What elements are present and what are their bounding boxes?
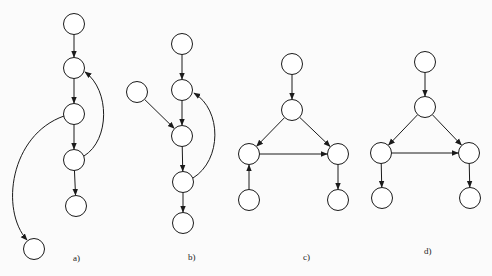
graph-node xyxy=(172,80,193,101)
graph-node xyxy=(64,150,85,171)
graph-a xyxy=(13,14,104,260)
graph-node xyxy=(127,82,148,103)
edge-arrow xyxy=(469,163,470,187)
graph-node xyxy=(239,190,260,211)
graph-node xyxy=(173,172,194,193)
graphs-svg xyxy=(0,0,492,276)
graph-node xyxy=(172,126,193,147)
graph-node xyxy=(64,58,85,79)
graph-d xyxy=(371,52,481,209)
graph-node xyxy=(66,196,87,217)
graph-node xyxy=(460,188,481,209)
graph-node xyxy=(64,14,85,35)
graph-node xyxy=(172,34,193,55)
edge-arrow xyxy=(193,93,215,178)
edge-arrow xyxy=(257,118,285,147)
graph-node xyxy=(282,54,303,75)
graph-node xyxy=(415,97,436,118)
diagram-canvas: a) b) c) d) xyxy=(0,0,492,276)
edge-arrow xyxy=(74,170,75,195)
graph-node xyxy=(64,104,85,125)
edge-arrow xyxy=(381,163,382,187)
edge-arrow xyxy=(182,146,183,171)
graph-node xyxy=(372,188,393,209)
edge-arrow xyxy=(84,72,104,156)
graph-node xyxy=(415,52,436,73)
graph-b-label: b) xyxy=(188,252,196,262)
graph-a-label: a) xyxy=(73,253,80,263)
edge-arrow xyxy=(13,116,64,240)
graph-b xyxy=(127,34,215,234)
graph-node xyxy=(328,144,349,165)
graph-c-label: c) xyxy=(303,252,310,262)
edge-arrow xyxy=(432,115,461,145)
edge-arrow xyxy=(145,99,175,128)
edge-arrow xyxy=(300,117,330,146)
graph-node xyxy=(459,143,480,164)
graph-c xyxy=(239,54,349,211)
graph-node xyxy=(239,144,260,165)
graph-node xyxy=(371,143,392,164)
graph-node xyxy=(328,190,349,211)
graph-node xyxy=(173,213,194,234)
edge-arrow xyxy=(389,115,418,145)
graph-node xyxy=(24,239,45,260)
graph-node xyxy=(282,100,303,121)
graph-d-label: d) xyxy=(424,246,432,256)
